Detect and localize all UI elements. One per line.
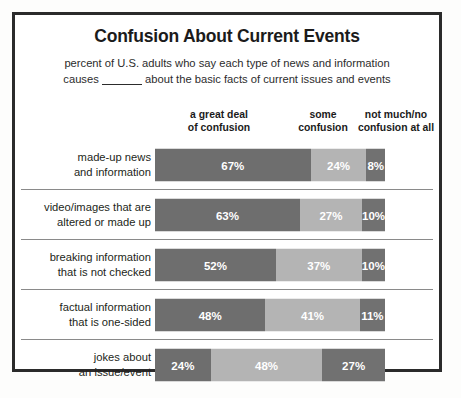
bar-segment-not-much: 10% bbox=[362, 199, 385, 232]
column-header-great-deal-line2: of confusion bbox=[188, 122, 250, 133]
row-label-line2: an issue/event bbox=[79, 366, 151, 378]
stacked-bar: 52% 37% 10% bbox=[155, 249, 385, 282]
row-label-line1: breaking information bbox=[50, 251, 151, 263]
chart-row: breaking information that is not checked… bbox=[15, 240, 439, 290]
bar-segment-great-deal: 67% bbox=[155, 149, 311, 182]
bar-segment-some: 24% bbox=[311, 149, 367, 182]
stacked-bar: 24% 48% 27% bbox=[155, 349, 385, 382]
chart-frame: Confusion About Current Events percent o… bbox=[12, 12, 442, 372]
chart-title: Confusion About Current Events bbox=[25, 27, 429, 46]
chart-subtitle-line1: percent of U.S. adults who say each type… bbox=[64, 57, 389, 69]
column-header-some: some confusion bbox=[285, 108, 361, 134]
column-header-not-much-line2: confusion at all bbox=[358, 122, 434, 133]
row-label-line1: jokes about bbox=[94, 351, 151, 363]
stacked-bar: 63% 27% 10% bbox=[155, 199, 385, 232]
column-header-some-line1: some bbox=[309, 109, 336, 120]
row-label: breaking information that is not checked bbox=[25, 250, 151, 279]
chart-subtitle-line2-after: about the basic facts of current issues … bbox=[145, 73, 391, 85]
chart-inner: Confusion About Current Events percent o… bbox=[15, 15, 439, 369]
bar-segment-some: 37% bbox=[276, 249, 362, 282]
chart-row: jokes about an issue/event 24% 48% 27% bbox=[15, 340, 439, 390]
row-label-line1: made-up news bbox=[78, 151, 151, 163]
column-header-great-deal-line1: a great deal bbox=[190, 109, 248, 120]
bar-segment-great-deal: 52% bbox=[155, 249, 276, 282]
column-header-great-deal: a great deal of confusion bbox=[155, 108, 283, 134]
chart-subtitle: percent of U.S. adults who say each type… bbox=[33, 55, 421, 87]
chart-page: Confusion About Current Events percent o… bbox=[0, 0, 461, 398]
row-label: made-up news and information bbox=[25, 150, 151, 179]
bar-segment-not-much: 10% bbox=[362, 249, 385, 282]
subtitle-blank-underline bbox=[102, 84, 142, 85]
stacked-bar: 48% 41% 11% bbox=[155, 299, 385, 332]
chart-row: made-up news and information 67% 24% 8% bbox=[15, 140, 439, 190]
bar-segment-some: 48% bbox=[211, 349, 323, 382]
row-label-line2: that is one-sided bbox=[69, 316, 151, 328]
row-label-line2: and information bbox=[74, 166, 151, 178]
bar-segment-not-much: 11% bbox=[360, 299, 385, 332]
column-headers: a great deal of confusion some confusion… bbox=[155, 108, 433, 138]
bar-segment-some: 41% bbox=[265, 299, 359, 332]
row-label: video/images that are altered or made up bbox=[25, 200, 151, 229]
bar-segment-great-deal: 24% bbox=[155, 349, 211, 382]
row-label: jokes about an issue/event bbox=[25, 350, 151, 379]
row-label-line1: video/images that are bbox=[44, 201, 151, 213]
bar-segment-great-deal: 48% bbox=[155, 299, 265, 332]
chart-rows: made-up news and information 67% 24% 8% … bbox=[15, 140, 439, 390]
row-label-line2: that is not checked bbox=[58, 266, 151, 278]
row-label-line2: altered or made up bbox=[57, 216, 151, 228]
chart-row: video/images that are altered or made up… bbox=[15, 190, 439, 240]
chart-subtitle-line2-before: causes bbox=[63, 73, 98, 85]
column-header-some-line2: confusion bbox=[298, 122, 348, 133]
chart-row: factual information that is one-sided 48… bbox=[15, 290, 439, 340]
stacked-bar: 67% 24% 8% bbox=[155, 149, 385, 182]
bar-segment-some: 27% bbox=[300, 199, 362, 232]
column-header-not-much: not much/no confusion at all bbox=[357, 108, 435, 134]
bar-segment-great-deal: 63% bbox=[155, 199, 300, 232]
row-label: factual information that is one-sided bbox=[25, 300, 151, 329]
row-label-line1: factual information bbox=[60, 301, 151, 313]
column-header-not-much-line1: not much/no bbox=[365, 109, 427, 120]
bar-segment-not-much: 8% bbox=[366, 149, 385, 182]
bar-segment-not-much: 27% bbox=[322, 349, 385, 382]
